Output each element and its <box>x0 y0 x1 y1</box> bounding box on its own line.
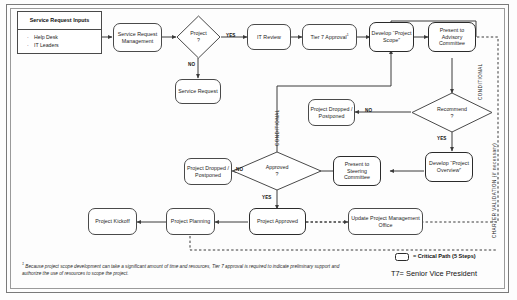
edge-label-recommend-yes: YES <box>437 136 447 141</box>
service-request-inputs-box: Service Request Inputs · Help Desk · IT … <box>17 11 102 54</box>
list-item: · IT Leaders <box>27 41 101 49</box>
node-present-to-steering-committee[interactable]: Present to Steering Committee <box>333 156 381 186</box>
node-project-dropped-postponed-top[interactable]: Project Dropped / Postponed <box>308 99 355 126</box>
decision-project[interactable]: Project ? <box>176 15 221 59</box>
node-present-to-advisory-committee[interactable]: Present to Advisory Committee <box>428 22 476 52</box>
legend-critical-path-swatch <box>395 253 409 261</box>
edge-label-project-yes: YES <box>226 33 236 38</box>
decision-approved[interactable]: Approved ? <box>232 151 322 191</box>
node-service-request[interactable]: Service Request <box>175 79 221 104</box>
edge-label-approved-yes: YES <box>262 195 272 200</box>
list-item-label: IT Leaders <box>34 41 59 49</box>
decision-recommend-line2: ? <box>451 113 454 119</box>
node-update-pmo[interactable]: Update Project Management Office <box>348 208 423 235</box>
edge-label-approved-no: NO <box>236 167 243 172</box>
decision-approved-line1: Approved <box>266 164 289 170</box>
flowchart-page: Service Request Inputs · Help Desk · IT … <box>0 0 517 300</box>
node-project-planning[interactable]: Project Planning <box>166 208 215 235</box>
node-tier7-label: Tier 7 Approval <box>310 34 346 40</box>
node-tier7-approval[interactable]: Tier 7 Approval1 <box>302 24 357 50</box>
node-develop-project-overview[interactable]: Develop “Project Overview” <box>425 152 473 182</box>
node-project-kickoff[interactable]: Project Kickoff <box>88 208 137 235</box>
node-develop-project-scope[interactable]: Develop “Project Scope” <box>369 22 414 52</box>
bullet-icon: · <box>27 33 34 41</box>
edge-label-project-no: NO <box>188 62 195 67</box>
inputs-box-list: · Help Desk · IT Leaders <box>18 30 101 50</box>
node-it-review[interactable]: IT Review <box>247 24 291 50</box>
legend-t7-label: T7= Senior Vice President <box>391 269 477 278</box>
decision-recommend-line1: Recommend <box>437 106 467 112</box>
footnote-marker: 1 <box>347 33 349 37</box>
legend-critical-path-label: = Critical Path (5 Steps) <box>413 253 476 259</box>
node-project-approved[interactable]: Project Approved <box>249 208 306 235</box>
decision-approved-line2: ? <box>276 171 279 177</box>
footnote-text: Because project scope development can ta… <box>22 264 339 277</box>
list-item: · Help Desk <box>27 33 101 41</box>
node-service-request-management[interactable]: Service Request Management <box>113 23 162 52</box>
footnote: 1 Because project scope development can … <box>22 262 352 278</box>
list-item-label: Help Desk <box>34 33 58 41</box>
annotation-conditional-right: CONDITIONAL <box>478 63 483 100</box>
inputs-box-title: Service Request Inputs <box>18 12 101 30</box>
footnote-marker-text: 1 <box>22 262 24 266</box>
node-project-dropped-postponed-bottom[interactable]: Project Dropped / Postponed <box>184 158 232 185</box>
annotation-charter-validation: CHARTER VALIDATION (if necessary) <box>492 143 497 238</box>
bullet-icon: · <box>27 41 34 49</box>
decision-project-line1: Project <box>190 30 207 36</box>
annotation-conditional-left: CONDITIONAL <box>275 109 280 146</box>
decision-project-line2: ? <box>197 37 200 43</box>
edge-label-recommend-no: NO <box>365 108 372 113</box>
